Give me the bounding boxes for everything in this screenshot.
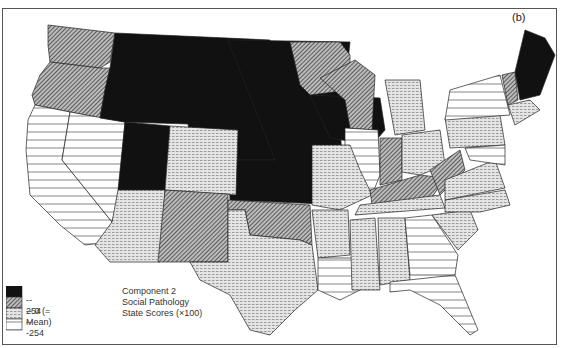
- legend-swatch-hatch: [6, 297, 22, 308]
- caption-line-3: State Scores (×100): [122, 308, 202, 319]
- caption-line-2: Social Pathology: [122, 297, 202, 308]
- state-pennsylvania: [445, 115, 505, 148]
- us-map: [0, 0, 561, 348]
- legend-swatch-lines: [6, 319, 22, 330]
- caption-line-1: Component 2: [122, 286, 202, 297]
- state-maryland: [465, 145, 505, 165]
- legend-swatches: [6, 286, 24, 332]
- state-indiana: [380, 138, 402, 185]
- map-caption: Component 2 Social Pathology State Score…: [122, 286, 202, 319]
- state-new-york: [445, 75, 510, 120]
- legend-swatch-black: [6, 286, 22, 297]
- legend-swatch-dots: [6, 308, 22, 319]
- state-washington: [48, 25, 115, 68]
- state-maine-nh: [515, 30, 555, 100]
- panel-label: (b): [512, 11, 525, 23]
- state-colorado: [165, 126, 238, 195]
- state-utah: [118, 122, 170, 190]
- map-figure: (b) -- 254 -- 0 (= Mean) -- -254 Compone…: [0, 0, 561, 348]
- state-new-england-south: [508, 100, 540, 125]
- legend: -- 254 -- 0 (= Mean) -- -254: [6, 286, 24, 336]
- state-mississippi: [350, 218, 380, 290]
- state-florida: [390, 275, 478, 335]
- state-new-mexico: [158, 190, 228, 262]
- state-alabama: [378, 218, 410, 285]
- state-arkansas: [312, 210, 350, 258]
- legend-label-neg254: -- -254: [26, 317, 44, 339]
- state-michigan: [385, 80, 425, 135]
